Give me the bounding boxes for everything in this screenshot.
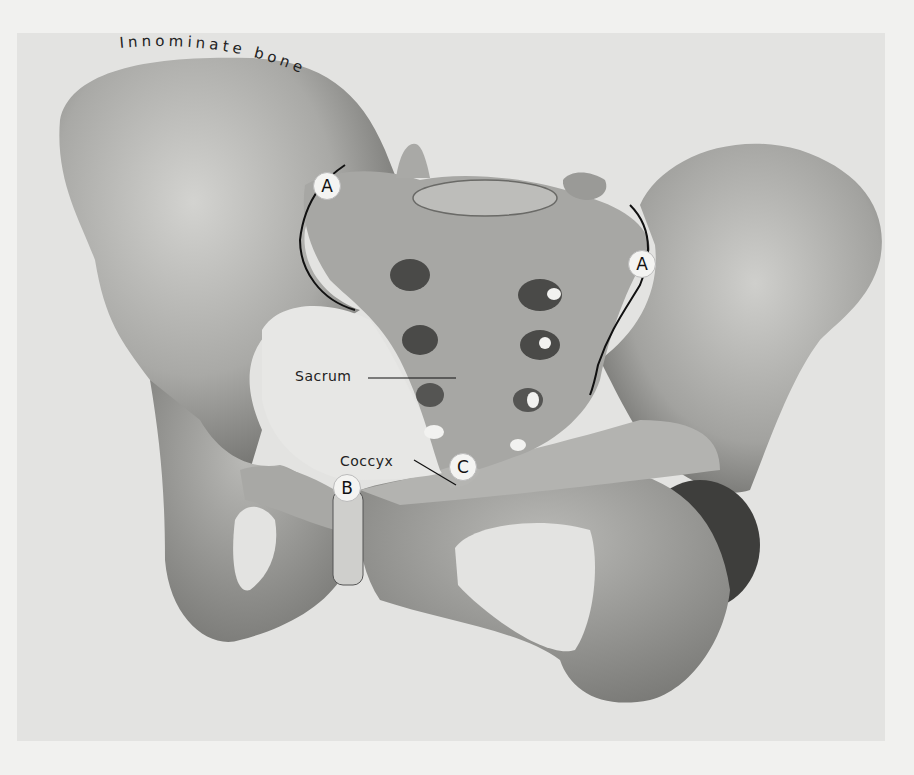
pelvis-illustration: Innominate bone bbox=[0, 0, 914, 775]
marker-a-left: A bbox=[313, 172, 341, 200]
sacral-promontory bbox=[413, 180, 557, 216]
marker-a-right: A bbox=[628, 250, 656, 278]
sacrum-label: Sacrum bbox=[295, 368, 351, 384]
marker-b: B bbox=[333, 474, 361, 502]
marker-c: C bbox=[449, 453, 477, 481]
coccyx-label: Coccyx bbox=[340, 453, 393, 469]
right-obturator-foramen bbox=[455, 523, 595, 651]
pubic-symphysis bbox=[333, 490, 363, 585]
